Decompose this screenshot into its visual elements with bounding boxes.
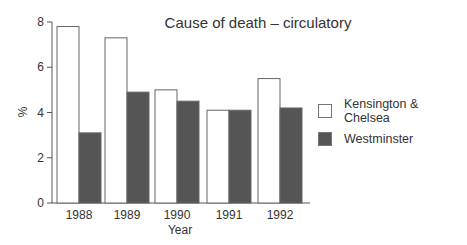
legend: Kensington & Chelsea Westminster bbox=[318, 100, 467, 156]
y-tick-label: 8 bbox=[37, 15, 44, 29]
bar-westminster-1992 bbox=[280, 108, 302, 203]
bar-westminster-1989 bbox=[127, 92, 149, 203]
legend-label-kensington: Kensington & Chelsea bbox=[344, 97, 467, 125]
legend-item-westminster: Westminster bbox=[318, 128, 467, 150]
chart-title: Cause of death – circulatory bbox=[165, 14, 352, 31]
legend-swatch-kensington bbox=[318, 104, 332, 118]
x-axis-label: Year bbox=[168, 223, 192, 237]
y-axis-label: % bbox=[16, 106, 30, 117]
x-tick-label: 1991 bbox=[216, 208, 243, 222]
bar-westminster-1988 bbox=[79, 133, 101, 203]
bar-westminster-1991 bbox=[229, 110, 251, 203]
y-tick-label: 6 bbox=[37, 60, 44, 74]
y-tick-label: 0 bbox=[37, 196, 44, 210]
legend-swatch-westminster bbox=[318, 132, 332, 146]
legend-label-westminster: Westminster bbox=[344, 132, 413, 146]
bar-kensington-1991 bbox=[207, 110, 229, 203]
x-tick-label: 1988 bbox=[66, 208, 93, 222]
x-tick-label: 1992 bbox=[267, 208, 294, 222]
legend-item-kensington: Kensington & Chelsea bbox=[318, 100, 467, 122]
y-tick-label: 2 bbox=[37, 151, 44, 165]
x-tick-label: 1989 bbox=[114, 208, 141, 222]
bar-kensington-1989 bbox=[105, 38, 127, 203]
bar-kensington-1990 bbox=[155, 90, 177, 203]
bar-westminster-1990 bbox=[177, 101, 199, 203]
x-tick-label: 1990 bbox=[164, 208, 191, 222]
y-tick-label: 4 bbox=[37, 106, 44, 120]
bar-kensington-1988 bbox=[57, 27, 79, 203]
bar-kensington-1992 bbox=[258, 79, 280, 203]
